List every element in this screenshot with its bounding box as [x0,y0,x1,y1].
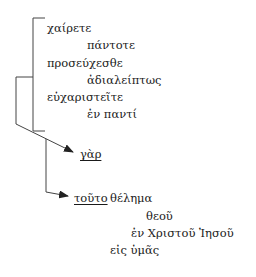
sentence-diagram: χαίρετε πάντοτε προσεύχεσθε ἀδιαλείπτως … [0,0,256,277]
word-chairete: χαίρετε [47,21,91,35]
word-proseuchesthe: προσεύχεσθε [47,56,123,70]
word-en-christou-iesou: ἐν Χριστοῦ Ἰησοῦ [131,226,234,240]
word-touto: τοῦτο [74,191,108,205]
arrow-to-gar [16,124,73,152]
word-pantote: πάντοτε [87,38,135,52]
imperatives-bracket [16,18,45,131]
word-gar: γὰρ [80,147,101,161]
word-eis-humas: εἰς ὑμᾶς [110,243,159,257]
word-thelema: θέλημα [110,191,152,205]
word-en-panti: ἐν παντί [87,107,137,121]
word-adialeiptos: ἀδιαλείπτως [87,73,161,87]
word-eucharisteite: εὐχαριστεῖτε [47,90,123,104]
word-theou: θεοῦ [146,209,173,223]
